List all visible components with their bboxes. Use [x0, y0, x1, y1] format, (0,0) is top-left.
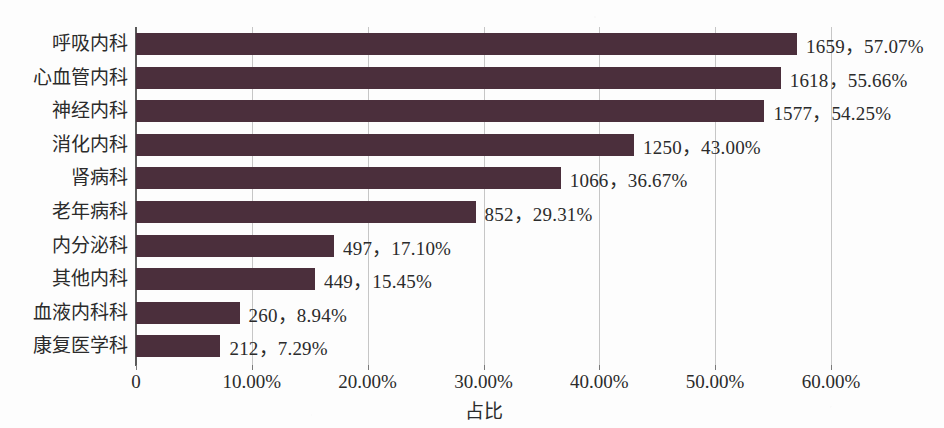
- category-label: 内分泌科: [0, 235, 128, 257]
- bar-value-label: 1618，55.66%: [790, 64, 908, 91]
- x-axis-tick: [831, 365, 832, 370]
- category-label: 神经内科: [0, 100, 128, 122]
- bar-value-label: 497，17.10%: [343, 232, 451, 259]
- category-label: 消化内科: [0, 134, 128, 156]
- bar[interactable]: [136, 235, 334, 257]
- bar-value-label: 212，7.29%: [229, 333, 327, 360]
- bar[interactable]: [136, 302, 240, 324]
- x-axis-tick: [136, 365, 137, 370]
- bar[interactable]: [136, 100, 764, 122]
- category-label: 老年病科: [0, 201, 128, 223]
- bar-row: 1659，57.07%: [136, 33, 831, 55]
- bar[interactable]: [136, 201, 476, 223]
- x-tick-label: 60.00%: [802, 371, 861, 393]
- category-label: 肾病科: [0, 167, 128, 189]
- bar-value-label: 449，15.45%: [324, 266, 432, 293]
- bar-row: 497，17.10%: [136, 235, 831, 257]
- bar[interactable]: [136, 33, 797, 55]
- plot-area: 1659，57.07%1618，55.66%1577，54.25%1250，43…: [136, 27, 831, 365]
- x-axis-tick: [599, 365, 600, 370]
- bar-row: 260，8.94%: [136, 302, 831, 324]
- bar-row: 1250，43.00%: [136, 134, 831, 156]
- bar[interactable]: [136, 134, 634, 156]
- x-axis-tick: [252, 365, 253, 370]
- bar-value-label: 1250，43.00%: [643, 131, 761, 158]
- x-tick-label: 30.00%: [454, 371, 513, 393]
- bar-row: 449，15.45%: [136, 268, 831, 290]
- x-tick-label: 20.00%: [338, 371, 397, 393]
- x-tick-label: 0: [131, 371, 141, 393]
- bar[interactable]: [136, 268, 315, 290]
- bar-value-label: 260，8.94%: [249, 299, 347, 326]
- bar-row: 1066，36.67%: [136, 167, 831, 189]
- x-tick-label: 10.00%: [223, 371, 282, 393]
- bar-value-label: 1577，54.25%: [773, 98, 891, 125]
- bar-value-label: 1066，36.67%: [570, 165, 688, 192]
- bar-value-label: 852，29.31%: [485, 199, 593, 226]
- category-label: 康复医学科: [0, 335, 128, 357]
- category-label: 呼吸内科: [0, 33, 128, 55]
- x-axis-tick: [484, 365, 485, 370]
- category-label: 心血管内科: [0, 67, 128, 89]
- x-axis-tick: [368, 365, 369, 370]
- bar[interactable]: [136, 67, 781, 89]
- bar-row: 212，7.29%: [136, 335, 831, 357]
- bar-row: 852，29.31%: [136, 201, 831, 223]
- bar-value-label: 1659，57.07%: [806, 31, 924, 58]
- x-axis-tick: [715, 365, 716, 370]
- bar[interactable]: [136, 167, 561, 189]
- x-axis-title: 占比: [465, 396, 503, 423]
- category-label: 其他内科: [0, 268, 128, 290]
- category-label: 血液内科科: [0, 302, 128, 324]
- bar-chart: 1659，57.07%1618，55.66%1577，54.25%1250，43…: [0, 0, 944, 428]
- bar-row: 1577，54.25%: [136, 100, 831, 122]
- x-tick-label: 40.00%: [570, 371, 629, 393]
- bar[interactable]: [136, 335, 220, 357]
- x-tick-label: 50.00%: [686, 371, 745, 393]
- bar-row: 1618，55.66%: [136, 67, 831, 89]
